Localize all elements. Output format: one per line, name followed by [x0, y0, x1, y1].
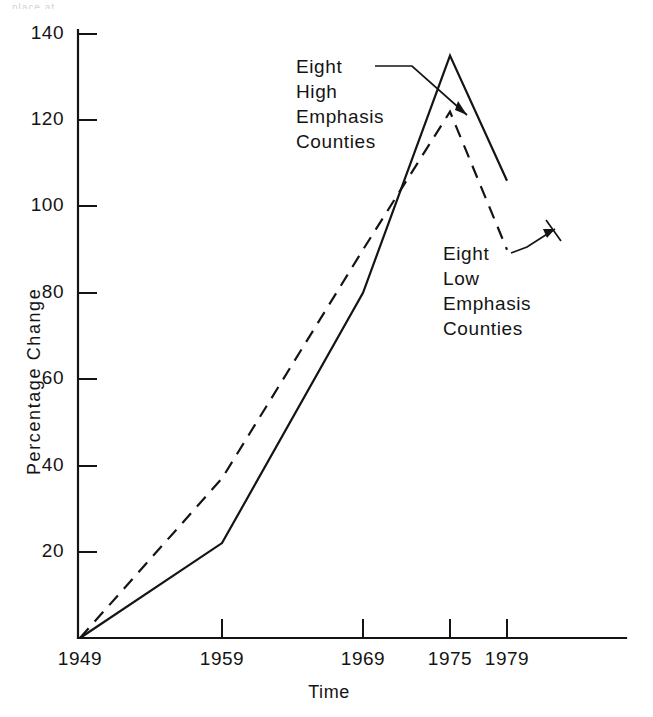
annotation-high-emphasis-line-2: High [296, 79, 384, 104]
x-tick-label-1959: 1959 [186, 648, 258, 670]
series-line-low-emphasis [80, 112, 507, 638]
y-axis-title: Percentage Change [24, 288, 45, 475]
y-tick-label-20: 20 [8, 540, 64, 562]
x-tick-label-1949: 1949 [44, 648, 116, 670]
leader-high-emphasis [375, 66, 467, 115]
annotation-low-emphasis: Eight Low Emphasis Counties [443, 241, 531, 341]
y-axis-ticks [78, 34, 97, 552]
annotation-low-emphasis-line-1: Eight [443, 241, 531, 266]
x-axis-ticks [222, 619, 507, 638]
y-tick-label-100: 100 [8, 194, 64, 216]
annotation-high-emphasis-line-1: Eight [296, 54, 384, 79]
x-tick-label-1979: 1979 [471, 648, 543, 670]
series-line-high-emphasis [80, 56, 507, 638]
annotation-low-emphasis-line-3: Emphasis [443, 291, 531, 316]
x-tick-label-1969: 1969 [327, 648, 399, 670]
annotation-high-emphasis: Eight High Emphasis Counties [296, 54, 384, 154]
annotation-high-emphasis-line-4: Counties [296, 129, 384, 154]
annotation-high-emphasis-line-3: Emphasis [296, 104, 384, 129]
annotation-low-emphasis-line-2: Low [443, 266, 531, 291]
y-tick-label-140: 140 [8, 22, 64, 44]
y-tick-label-120: 120 [8, 108, 64, 130]
chart-figure: place at [0, 0, 653, 717]
x-axis-title: Time [274, 682, 384, 703]
annotation-low-emphasis-line-4: Counties [443, 316, 531, 341]
